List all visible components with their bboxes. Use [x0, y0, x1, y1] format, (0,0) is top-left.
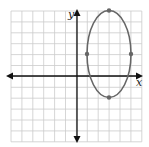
coordinate-plane: y x: [0, 0, 149, 147]
y-axis-top-arrow-icon: [74, 9, 81, 16]
vertex-top: [107, 8, 111, 12]
vertex-bottom: [107, 95, 111, 99]
co-vertex-left: [85, 52, 89, 56]
x-axis: [6, 73, 143, 80]
co-vertex-right: [129, 52, 133, 56]
x-axis-label: x: [136, 76, 143, 89]
x-axis-left-arrow-icon: [6, 73, 13, 80]
y-axis-label: y: [67, 8, 75, 21]
